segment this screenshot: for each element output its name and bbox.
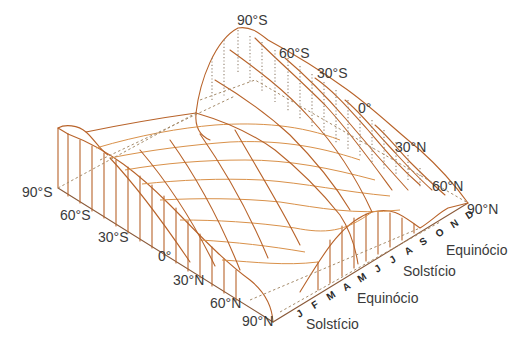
left-wall-top: [58, 126, 108, 188]
front-label-30n: 30°N: [173, 273, 204, 287]
season-label-solstice-jun: Solstício: [403, 264, 456, 278]
front-label-90s: 90°S: [22, 185, 53, 199]
front-label-90n: 90°N: [242, 314, 273, 328]
front-label-30s: 30°S: [98, 230, 129, 244]
back-label-60s: 60°S: [279, 46, 310, 60]
front-label-60n: 60°N: [210, 296, 241, 310]
back-hidden-verticals: [212, 30, 420, 188]
wireframe-surface: [0, 0, 530, 338]
back-label-0: 0°: [358, 101, 371, 115]
front-label-0: 0°: [158, 249, 171, 263]
front-surface-edge: [68, 134, 273, 322]
back-label-30n: 30°N: [395, 140, 426, 154]
season-label-equinox-mar: Equinócio: [357, 291, 419, 305]
back-label-90s: 90°S: [237, 13, 268, 27]
back-label-30s: 30°S: [317, 66, 348, 80]
back-ridge-outline: [196, 28, 468, 203]
front-label-60s: 60°S: [60, 208, 91, 222]
season-label-equinox-sep: Equinócio: [446, 243, 508, 257]
back-label-60n: 60°N: [432, 179, 463, 193]
insolation-3d-diagram: 90°S 60°S 30°S 0° 30°N 60°N 90°N 90°S 60…: [0, 0, 530, 338]
season-label-solstice-dec: Solstício: [306, 317, 359, 331]
